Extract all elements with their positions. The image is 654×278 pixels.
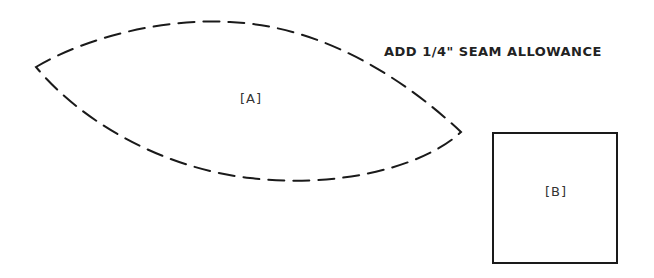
piece-b-label: [B] [545,184,567,199]
pattern-shapes [0,0,654,278]
pattern-sheet: ADD 1/4" SEAM ALLOWANCE [A] [B] [0,0,654,278]
seam-allowance-note: ADD 1/4" SEAM ALLOWANCE [384,44,602,59]
piece-a-label: [A] [240,91,262,106]
